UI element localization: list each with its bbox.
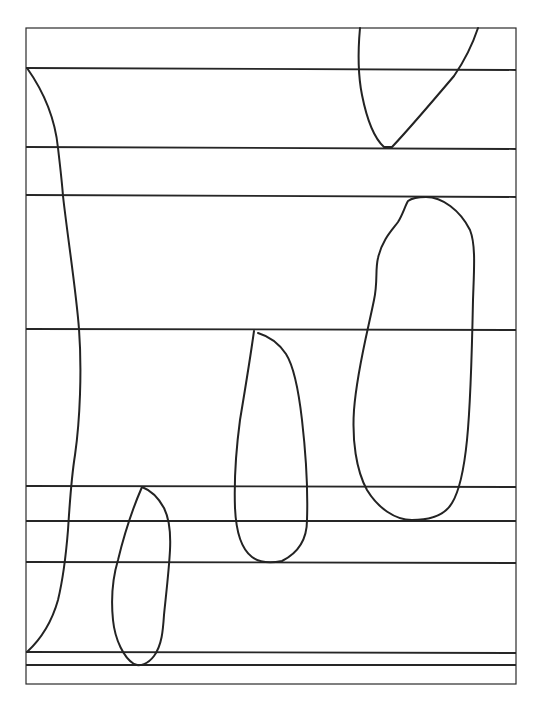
- middle-loop: [235, 331, 308, 562]
- horizontal-rule-5: [26, 486, 516, 487]
- horizontal-rule-1: [26, 68, 516, 70]
- horizontal-rules: [26, 68, 516, 665]
- left-descending-curve: [27, 68, 80, 652]
- horizontal-rule-8: [26, 652, 516, 653]
- large-right-loop: [354, 197, 475, 520]
- top-right-v-curve: [359, 28, 478, 147]
- outer-frame: [26, 28, 516, 684]
- horizontal-rule-4: [26, 329, 516, 330]
- horizontal-rule-2: [26, 147, 516, 149]
- line-drawing-canvas: [0, 0, 539, 708]
- bottom-left-loop: [112, 487, 170, 665]
- horizontal-rule-3: [26, 195, 516, 197]
